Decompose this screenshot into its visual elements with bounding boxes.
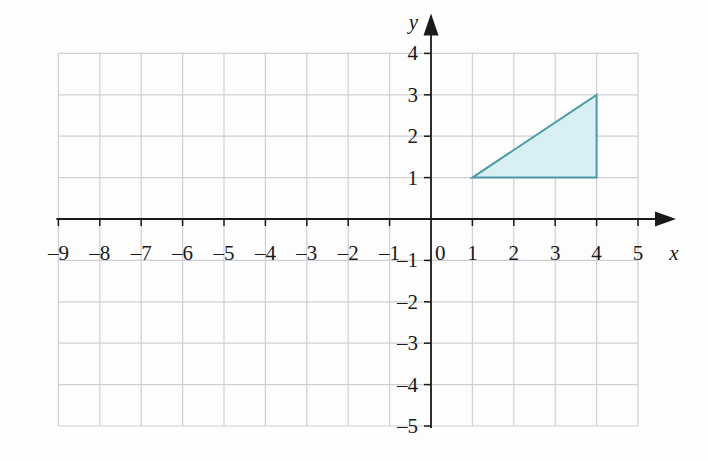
x-tick-label: –5 — [213, 241, 235, 265]
x-tick-label: –7 — [130, 241, 152, 265]
x-tick-label: 1 — [467, 241, 478, 265]
x-tick-label: 4 — [591, 241, 602, 265]
figure-background — [0, 0, 708, 461]
x-tick-label: 5 — [633, 241, 644, 265]
y-tick-label: –2 — [396, 290, 418, 314]
y-tick-label: 3 — [408, 83, 419, 107]
y-tick-label: –5 — [396, 414, 418, 438]
x-tick-label: 3 — [550, 241, 561, 265]
x-tick-label: –6 — [171, 241, 193, 265]
x-tick-label: –3 — [295, 241, 317, 265]
coordinate-grid-figure: –9–8–7–6–5–4–3–2–10123454321–1–2–3–4–5 x… — [0, 0, 708, 461]
y-tick-label: 4 — [408, 41, 419, 65]
x-tick-label: –8 — [88, 241, 110, 265]
y-tick-label: –4 — [396, 373, 419, 397]
y-axis-label: y — [407, 10, 419, 34]
y-tick-label: –3 — [396, 331, 418, 355]
y-tick-label: –1 — [396, 248, 418, 272]
x-tick-label: –9 — [47, 241, 69, 265]
y-tick-label: 2 — [408, 124, 419, 148]
x-axis-label: x — [668, 241, 679, 265]
x-tick-label: –4 — [254, 241, 277, 265]
x-tick-label: –2 — [337, 241, 359, 265]
origin-label: 0 — [435, 241, 446, 265]
x-tick-label: 2 — [509, 241, 520, 265]
y-tick-label: 1 — [408, 166, 419, 190]
